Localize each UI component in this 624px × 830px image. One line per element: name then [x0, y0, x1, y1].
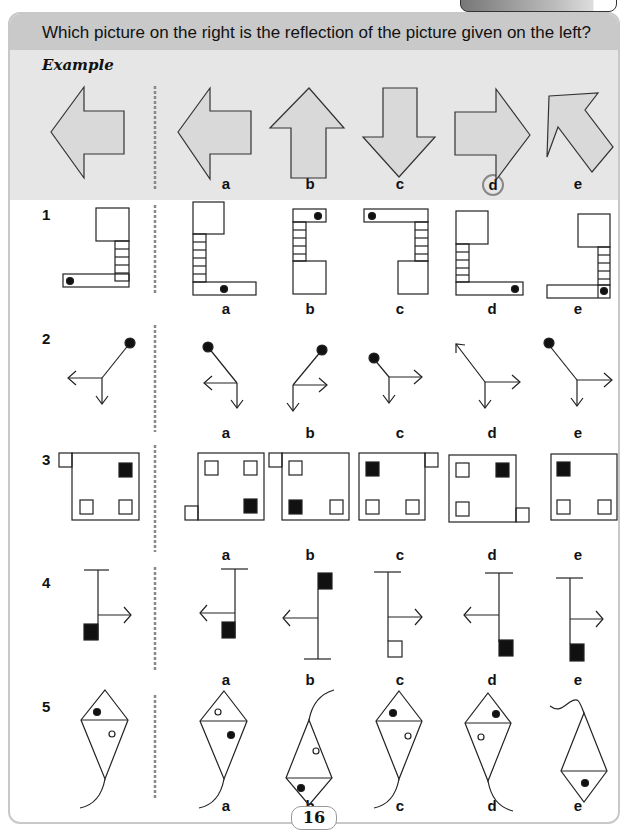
q4-option-b-figure [283, 573, 332, 659]
q1-option-a-figure [193, 202, 256, 295]
q5-source-kite [80, 690, 128, 808]
q2-option-b-figure [287, 345, 327, 411]
q5-option-d-kite [465, 693, 513, 811]
example-arrow-e-diag [547, 93, 613, 172]
page-number: 16 [291, 806, 337, 830]
q4-option-a-figure [200, 569, 248, 638]
q3-option-c-figure [359, 453, 438, 520]
q2-option-e-figure [544, 338, 612, 406]
q3-option-a-figure [185, 453, 264, 520]
q5-option-e-kite [550, 700, 607, 802]
q1-option-d-figure [456, 211, 523, 295]
example-arrow-b-up [270, 88, 344, 178]
q2-option-c-figure [369, 353, 422, 403]
q2-option-d-figure [456, 344, 520, 408]
q5-option-c-kite [374, 691, 422, 808]
q4-source-figure [84, 570, 131, 640]
q4-option-c-figure [374, 572, 422, 657]
q3-option-b-figure [269, 453, 349, 520]
q3-option-e-figure [551, 454, 617, 520]
q1-option-e-figure [547, 214, 610, 298]
q5-option-a-kite [199, 691, 247, 808]
q1-source-figure [63, 208, 129, 287]
example-arrow-d-right [455, 89, 530, 180]
q4-option-e-figure [556, 578, 603, 661]
q4-option-d-figure [464, 573, 513, 656]
q5-option-b-kite [286, 690, 334, 805]
example-source-left-arrow [51, 87, 124, 178]
example-arrows [51, 87, 613, 180]
example-arrow-c-down [363, 88, 435, 177]
q2-option-a-figure [203, 342, 243, 408]
q3-option-d-figure [449, 455, 529, 522]
example-arrow-a-left [178, 88, 251, 179]
q2-source-figure [68, 338, 135, 404]
q1-option-c-figure [364, 209, 428, 294]
q1-option-b-figure [293, 209, 326, 294]
q3-source-figure [59, 453, 139, 520]
